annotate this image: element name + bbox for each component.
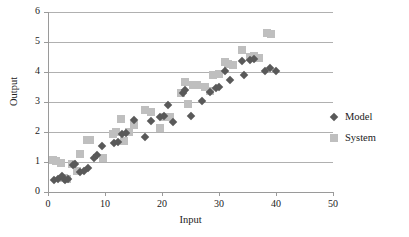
- y-tick-label: 3: [18, 95, 40, 106]
- x-tick-label: 0: [36, 198, 60, 209]
- gridline: [48, 132, 333, 133]
- scatter-chart-figure: 0123456 01020304050 Input Output Model S…: [0, 0, 409, 237]
- x-tick-label: 10: [93, 198, 117, 209]
- x-axis-title: Input: [48, 214, 333, 225]
- data-point-model: [169, 118, 177, 126]
- y-tick: [44, 162, 49, 163]
- data-point-system: [147, 108, 155, 116]
- data-point-model: [97, 141, 105, 149]
- gridline: [48, 72, 333, 73]
- y-tick-label: 6: [18, 5, 40, 16]
- y-tick-label: 2: [18, 125, 40, 136]
- data-point-system: [117, 115, 125, 123]
- data-point-system: [181, 78, 189, 86]
- legend-label-model: Model: [345, 111, 372, 122]
- data-point-system: [193, 81, 201, 89]
- x-axis-line: [48, 192, 334, 193]
- x-tick: [48, 192, 49, 196]
- data-point-model: [198, 97, 206, 105]
- data-point-model: [226, 76, 234, 84]
- legend-item-model[interactable]: Model: [327, 106, 407, 127]
- data-point-system: [229, 61, 237, 69]
- y-tick-label: 0: [18, 185, 40, 196]
- data-point-model: [238, 56, 246, 64]
- y-tick-label: 1: [18, 155, 40, 166]
- gridline: [48, 162, 333, 163]
- gridline: [48, 42, 333, 43]
- data-point-model: [186, 111, 194, 119]
- data-point-system: [238, 46, 246, 54]
- x-tick: [105, 192, 106, 196]
- data-point-system: [57, 159, 65, 167]
- x-tick-label: 40: [264, 198, 288, 209]
- y-tick: [44, 42, 49, 43]
- data-point-system: [156, 124, 164, 132]
- y-tick: [44, 12, 49, 13]
- x-tick-label: 50: [321, 198, 345, 209]
- x-tick-label: 20: [150, 198, 174, 209]
- data-point-model: [146, 117, 154, 125]
- y-tick: [44, 132, 49, 133]
- diamond-marker-icon: [327, 114, 341, 120]
- data-point-model: [141, 133, 149, 141]
- y-tick-label: 5: [18, 35, 40, 46]
- y-tick-label: 4: [18, 65, 40, 76]
- data-point-system: [86, 136, 94, 144]
- legend-label-system: System: [345, 132, 376, 143]
- gridline: [48, 12, 333, 13]
- x-tick: [219, 192, 220, 196]
- x-tick: [333, 192, 334, 196]
- data-point-system: [267, 30, 275, 38]
- chart-legend: Model System: [327, 106, 407, 148]
- y-axis-title: Output: [8, 62, 19, 122]
- legend-item-system[interactable]: System: [327, 127, 407, 148]
- x-tick-label: 30: [207, 198, 231, 209]
- data-point-system: [184, 100, 192, 108]
- data-point-system: [76, 150, 84, 158]
- plot-area: [48, 12, 333, 192]
- x-tick: [162, 192, 163, 196]
- y-tick: [44, 102, 49, 103]
- square-marker-icon: [327, 134, 341, 142]
- x-tick: [276, 192, 277, 196]
- y-tick: [44, 72, 49, 73]
